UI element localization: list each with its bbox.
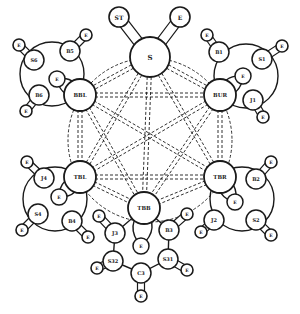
node-s[interactable]: S xyxy=(130,37,170,77)
node-b4[interactable]: B4 xyxy=(62,211,82,231)
node-end-b5[interactable]: E xyxy=(80,29,92,41)
node-s1[interactable]: S1 xyxy=(252,49,272,69)
mesh-link-s-tbr xyxy=(152,56,222,176)
node-j4-label: J4 xyxy=(40,175,47,182)
mesh-link-bur-tbb xyxy=(142,94,218,207)
node-end-b1[interactable]: E xyxy=(201,29,213,41)
node-bbl-label: BBL xyxy=(73,92,86,98)
node-tbr[interactable]: TBR xyxy=(204,161,236,193)
node-end-s4-label: E xyxy=(20,228,24,233)
node-end-j1-label: E xyxy=(261,115,265,120)
node-end-b4[interactable]: E xyxy=(82,231,94,243)
node-s-label: S xyxy=(147,53,152,62)
node-j1-label: J1 xyxy=(249,97,256,104)
node-j3[interactable]: J3 xyxy=(105,223,125,243)
node-local-tbr-label: E xyxy=(233,200,237,205)
node-s31-label: S31 xyxy=(163,256,174,262)
node-b6[interactable]: B6 xyxy=(29,85,49,105)
node-s6-label: S6 xyxy=(30,57,38,63)
node-bur[interactable]: BUR xyxy=(204,79,236,111)
node-s32[interactable]: S32 xyxy=(103,251,123,271)
node-core-e-label: E xyxy=(178,14,183,21)
node-local-tbb-label: E xyxy=(139,244,143,249)
node-end-c3[interactable]: E xyxy=(135,290,147,302)
node-end-j2[interactable]: E xyxy=(195,226,207,238)
node-local-bbl-label: E xyxy=(55,77,59,82)
node-tbl[interactable]: TBL xyxy=(64,161,96,193)
mesh-link-bbl-tbr xyxy=(81,93,221,175)
node-end-s6[interactable]: E xyxy=(13,39,25,51)
node-end-c3-label: E xyxy=(139,294,143,299)
node-j2[interactable]: J2 xyxy=(204,210,224,230)
node-tbl-label: TBL xyxy=(74,174,87,180)
node-tbb-label: TBB xyxy=(137,205,151,211)
node-b1[interactable]: B1 xyxy=(209,42,229,62)
node-j4[interactable]: J4 xyxy=(34,168,54,188)
node-end-s32-label: E xyxy=(95,266,99,271)
node-j1[interactable]: J1 xyxy=(243,90,263,110)
node-local-bur[interactable]: E xyxy=(235,68,251,84)
node-b5-label: B5 xyxy=(66,48,74,54)
node-b3-label: B3 xyxy=(165,227,173,233)
node-s4[interactable]: S4 xyxy=(28,204,48,224)
mesh-link-s-tbr xyxy=(148,58,218,178)
node-s1-label: S1 xyxy=(258,56,265,62)
node-end-b5-label: E xyxy=(84,33,88,38)
node-tbr-label: TBR xyxy=(213,174,227,180)
node-local-bur-label: E xyxy=(241,74,245,79)
node-end-b6-label: E xyxy=(24,109,28,114)
node-end-j3-label: E xyxy=(97,214,101,219)
node-b4-label: B4 xyxy=(68,218,76,224)
node-end-b3[interactable]: E xyxy=(181,208,193,220)
node-end-s2[interactable]: E xyxy=(265,229,277,241)
mesh-link-bur-tbl xyxy=(79,93,219,175)
mesh-link-s-tbl xyxy=(82,58,152,178)
node-end-j3[interactable]: E xyxy=(93,210,105,222)
node-b5[interactable]: B5 xyxy=(60,41,80,61)
node-end-s6-label: E xyxy=(17,43,21,48)
node-c3[interactable]: C3 xyxy=(131,263,151,283)
node-end-b2[interactable]: E xyxy=(265,156,277,168)
nodes: SSTEBBLBURTBLTBRTBBS6EB5EB6EEB1ES1EJ1EEJ… xyxy=(13,7,288,302)
node-end-b1-label: E xyxy=(205,33,209,38)
node-bbl[interactable]: BBL xyxy=(64,79,96,111)
node-end-s32[interactable]: E xyxy=(91,262,103,274)
node-end-b2-label: E xyxy=(269,160,273,165)
node-end-s31-label: E xyxy=(185,268,189,273)
node-end-j1[interactable]: E xyxy=(257,111,269,123)
node-s2[interactable]: S2 xyxy=(246,210,266,230)
node-local-tbl[interactable]: E xyxy=(51,189,67,205)
node-end-s1-label: E xyxy=(280,44,284,49)
node-s32-label: S32 xyxy=(108,258,119,264)
node-end-b4-label: E xyxy=(86,235,90,240)
node-c3-label: C3 xyxy=(137,270,145,276)
node-s2-label: S2 xyxy=(252,217,260,223)
mesh-link-bbl-tbb xyxy=(82,94,146,207)
node-end-b6[interactable]: E xyxy=(20,105,32,117)
node-tbb[interactable]: TBB xyxy=(128,192,160,224)
node-s31[interactable]: S31 xyxy=(158,249,178,269)
mesh-link-bbl-tbb xyxy=(78,96,142,209)
mesh-link-bur-tbl xyxy=(81,97,221,179)
node-b2[interactable]: B2 xyxy=(246,169,266,189)
node-b3[interactable]: B3 xyxy=(159,220,179,240)
node-end-b3-label: E xyxy=(185,212,189,217)
node-end-s1[interactable]: E xyxy=(276,40,288,52)
node-end-j4[interactable]: E xyxy=(21,156,33,168)
node-local-tbl-label: E xyxy=(57,195,61,200)
node-local-bbl[interactable]: E xyxy=(49,71,65,87)
node-end-s2-label: E xyxy=(269,233,273,238)
node-s6[interactable]: S6 xyxy=(24,50,44,70)
node-end-s4[interactable]: E xyxy=(16,224,28,236)
node-end-j2-label: E xyxy=(199,230,203,235)
node-local-tbr[interactable]: E xyxy=(227,194,243,210)
node-b2-label: B2 xyxy=(252,176,260,182)
node-core-e[interactable]: E xyxy=(170,7,190,27)
node-core-st[interactable]: ST xyxy=(109,7,129,27)
node-j3-label: J3 xyxy=(111,230,118,237)
node-local-tbb[interactable]: E xyxy=(133,238,149,254)
node-j2-label: J2 xyxy=(210,217,217,224)
node-end-s31[interactable]: E xyxy=(181,264,193,276)
node-b6-label: B6 xyxy=(35,92,43,98)
node-end-j4-label: E xyxy=(25,160,29,165)
